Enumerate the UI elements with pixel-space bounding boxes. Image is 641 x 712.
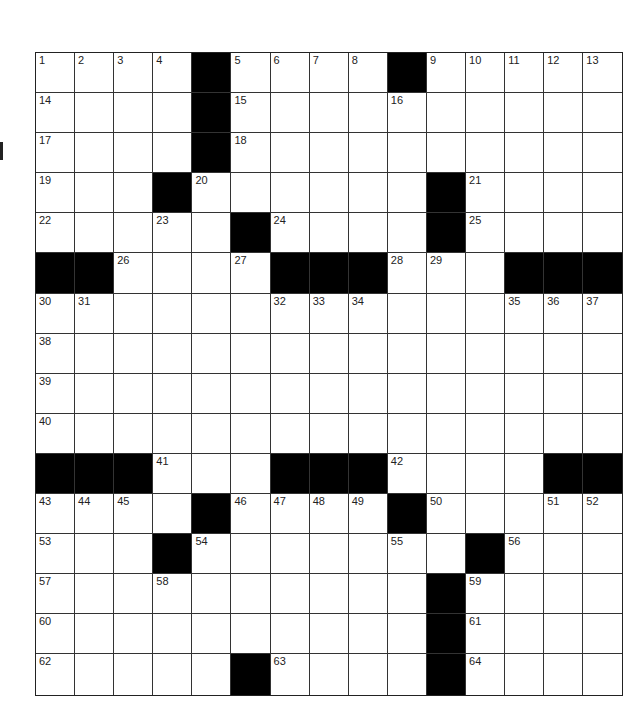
- grid-cell[interactable]: 1: [36, 53, 75, 93]
- grid-cell[interactable]: 55: [388, 534, 427, 574]
- grid-cell[interactable]: [583, 93, 622, 133]
- grid-cell[interactable]: [544, 574, 583, 614]
- grid-cell[interactable]: [583, 374, 622, 414]
- grid-cell[interactable]: [271, 414, 310, 454]
- grid-cell[interactable]: 10: [466, 53, 505, 93]
- grid-cell[interactable]: 49: [349, 494, 388, 534]
- grid-cell[interactable]: [114, 334, 153, 374]
- grid-cell[interactable]: [349, 574, 388, 614]
- grid-cell[interactable]: 32: [271, 294, 310, 334]
- grid-cell[interactable]: [231, 374, 270, 414]
- grid-cell[interactable]: [349, 213, 388, 253]
- grid-cell[interactable]: [505, 374, 544, 414]
- grid-cell[interactable]: 38: [36, 334, 75, 374]
- grid-cell[interactable]: [114, 374, 153, 414]
- grid-cell[interactable]: [75, 93, 114, 133]
- grid-cell[interactable]: [153, 334, 192, 374]
- grid-cell[interactable]: [192, 253, 231, 293]
- grid-cell[interactable]: [114, 93, 153, 133]
- grid-cell[interactable]: [75, 374, 114, 414]
- grid-cell[interactable]: [505, 173, 544, 213]
- grid-cell[interactable]: [192, 614, 231, 654]
- grid-cell[interactable]: 50: [427, 494, 466, 534]
- grid-cell[interactable]: [114, 534, 153, 574]
- grid-cell[interactable]: [114, 414, 153, 454]
- grid-cell[interactable]: 58: [153, 574, 192, 614]
- grid-cell[interactable]: [192, 574, 231, 614]
- grid-cell[interactable]: [310, 334, 349, 374]
- grid-cell[interactable]: [388, 133, 427, 173]
- grid-cell[interactable]: 31: [75, 294, 114, 334]
- grid-cell[interactable]: 59: [466, 574, 505, 614]
- grid-cell[interactable]: 11: [505, 53, 544, 93]
- grid-cell[interactable]: [231, 454, 270, 494]
- grid-cell[interactable]: 7: [310, 53, 349, 93]
- grid-cell[interactable]: [271, 374, 310, 414]
- grid-cell[interactable]: 44: [75, 494, 114, 534]
- grid-cell[interactable]: [544, 414, 583, 454]
- grid-cell[interactable]: 57: [36, 574, 75, 614]
- grid-cell[interactable]: 40: [36, 414, 75, 454]
- grid-cell[interactable]: 29: [427, 253, 466, 293]
- grid-cell[interactable]: 64: [466, 654, 505, 694]
- grid-cell[interactable]: [583, 213, 622, 253]
- grid-cell[interactable]: 4: [153, 53, 192, 93]
- grid-cell[interactable]: [271, 173, 310, 213]
- grid-cell[interactable]: [505, 574, 544, 614]
- grid-cell[interactable]: 61: [466, 614, 505, 654]
- grid-cell[interactable]: 21: [466, 173, 505, 213]
- grid-cell[interactable]: 14: [36, 93, 75, 133]
- grid-cell[interactable]: [466, 294, 505, 334]
- grid-cell[interactable]: 20: [192, 173, 231, 213]
- grid-cell[interactable]: [75, 334, 114, 374]
- grid-cell[interactable]: [466, 133, 505, 173]
- grid-cell[interactable]: 5: [231, 53, 270, 93]
- grid-cell[interactable]: 47: [271, 494, 310, 534]
- grid-cell[interactable]: [349, 614, 388, 654]
- grid-cell[interactable]: [310, 213, 349, 253]
- grid-cell[interactable]: [271, 614, 310, 654]
- grid-cell[interactable]: [192, 654, 231, 694]
- grid-cell[interactable]: [388, 654, 427, 694]
- grid-cell[interactable]: [466, 334, 505, 374]
- grid-cell[interactable]: [505, 614, 544, 654]
- grid-cell[interactable]: [505, 494, 544, 534]
- grid-cell[interactable]: [153, 614, 192, 654]
- grid-cell[interactable]: 18: [231, 133, 270, 173]
- grid-cell[interactable]: [75, 133, 114, 173]
- grid-cell[interactable]: [231, 614, 270, 654]
- grid-cell[interactable]: [583, 654, 622, 694]
- grid-cell[interactable]: 52: [583, 494, 622, 534]
- grid-cell[interactable]: [271, 334, 310, 374]
- grid-cell[interactable]: 23: [153, 213, 192, 253]
- grid-cell[interactable]: [75, 534, 114, 574]
- grid-cell[interactable]: [505, 213, 544, 253]
- grid-cell[interactable]: 60: [36, 614, 75, 654]
- grid-cell[interactable]: [153, 133, 192, 173]
- grid-cell[interactable]: 45: [114, 494, 153, 534]
- grid-cell[interactable]: 30: [36, 294, 75, 334]
- grid-cell[interactable]: [427, 133, 466, 173]
- grid-cell[interactable]: [544, 213, 583, 253]
- grid-cell[interactable]: [231, 173, 270, 213]
- grid-cell[interactable]: [153, 654, 192, 694]
- grid-cell[interactable]: [349, 374, 388, 414]
- grid-cell[interactable]: 43: [36, 494, 75, 534]
- grid-cell[interactable]: [114, 294, 153, 334]
- grid-cell[interactable]: 46: [231, 494, 270, 534]
- grid-cell[interactable]: 2: [75, 53, 114, 93]
- grid-cell[interactable]: [427, 414, 466, 454]
- grid-cell[interactable]: 22: [36, 213, 75, 253]
- grid-cell[interactable]: 26: [114, 253, 153, 293]
- grid-cell[interactable]: [427, 374, 466, 414]
- grid-cell[interactable]: [466, 414, 505, 454]
- grid-cell[interactable]: [75, 654, 114, 694]
- grid-cell[interactable]: [505, 414, 544, 454]
- grid-cell[interactable]: [466, 374, 505, 414]
- grid-cell[interactable]: [153, 93, 192, 133]
- grid-cell[interactable]: 12: [544, 53, 583, 93]
- grid-cell[interactable]: 19: [36, 173, 75, 213]
- grid-cell[interactable]: 27: [231, 253, 270, 293]
- grid-cell[interactable]: [75, 414, 114, 454]
- grid-cell[interactable]: [466, 253, 505, 293]
